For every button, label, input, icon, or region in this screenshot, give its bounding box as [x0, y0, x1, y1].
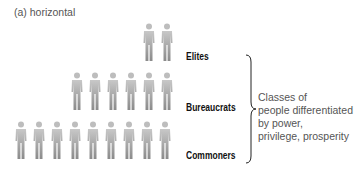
description-line: people differentiated	[258, 104, 353, 117]
person-icon	[51, 121, 63, 160]
description-line: privilege, prosperity	[258, 130, 353, 143]
description-line: by power,	[258, 117, 353, 130]
bureaucrats-label: Bureaucrats	[186, 102, 236, 113]
person-icon	[87, 121, 99, 160]
person-icon	[15, 121, 27, 160]
person-icon	[69, 121, 81, 160]
person-icon	[33, 121, 45, 160]
person-icon	[71, 72, 83, 111]
figure-caption: (a) horizontal	[14, 6, 75, 18]
description-line: Classes of	[258, 91, 353, 104]
person-icon	[89, 72, 101, 111]
elites-label: Elites	[186, 51, 209, 62]
bureaucrats-figures-row	[71, 72, 173, 111]
commoners-figures-row	[15, 121, 171, 160]
person-icon	[107, 72, 119, 111]
person-icon	[125, 72, 137, 111]
person-icon	[143, 23, 155, 62]
person-icon	[143, 72, 155, 111]
person-icon	[105, 121, 117, 160]
person-icon	[141, 121, 153, 160]
commoners-label: Commoners	[186, 150, 236, 161]
person-icon	[123, 121, 135, 160]
person-icon	[161, 23, 173, 62]
curly-brace-icon	[244, 54, 258, 164]
person-icon	[161, 72, 173, 111]
elites-figures-row	[143, 23, 173, 62]
person-icon	[159, 121, 171, 160]
classes-description: Classes of people differentiated by powe…	[258, 91, 353, 143]
